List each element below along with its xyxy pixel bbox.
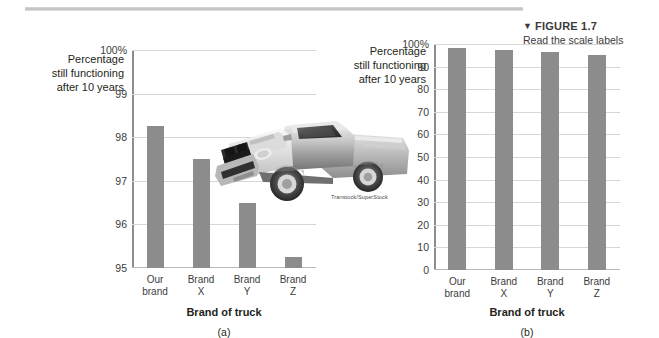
- figure-caption: ▼FIGURE 1.7 Read the scale labels: [523, 20, 655, 46]
- gridline: [132, 50, 316, 51]
- chart-b-plot-area: [434, 44, 620, 270]
- x-category-label: Brand Y: [527, 276, 574, 300]
- bar: [147, 126, 164, 268]
- y-tick-label: 99: [115, 88, 127, 100]
- y-tick-label: 10: [417, 241, 429, 253]
- x-category-label: Brand Z: [270, 274, 316, 298]
- bar: [448, 48, 466, 270]
- x-category-label: Brand Y: [224, 274, 270, 298]
- bar: [588, 55, 606, 270]
- y-tick-label: 95: [115, 262, 127, 274]
- chart-a-y-axis: [132, 50, 134, 268]
- bar: [541, 52, 559, 270]
- x-category-label: Brand X: [481, 276, 528, 300]
- chart-b-x-axis-title: Brand of truck: [434, 306, 620, 318]
- y-tick-label: 96: [115, 218, 127, 230]
- y-tick-label: 100%: [402, 38, 429, 50]
- bar: [495, 50, 513, 270]
- y-tick-label: 0: [423, 264, 429, 276]
- figure-title-line: ▼FIGURE 1.7: [523, 20, 655, 32]
- gridline: [434, 44, 620, 45]
- chart-a-panel-label: (a): [132, 326, 316, 338]
- y-tick-label: 98: [115, 131, 127, 143]
- y-tick-label: 80: [417, 83, 429, 95]
- chart-panel-b: Percentage still functioning after 10 ye…: [330, 44, 630, 334]
- x-category-label: Our brand: [434, 276, 481, 300]
- y-tick-label: 30: [417, 196, 429, 208]
- y-tick-label: 100%: [100, 44, 127, 56]
- figure-number-label: FIGURE 1.7: [535, 20, 597, 32]
- bar: [239, 203, 256, 268]
- chart-b-panel-label: (b): [434, 326, 620, 338]
- y-tick-label: 60: [417, 128, 429, 140]
- chart-a-y-axis-title: Percentage still functioning after 10 ye…: [28, 52, 124, 94]
- y-tick-label: 50: [417, 151, 429, 163]
- y-tick-label: 90: [417, 61, 429, 73]
- top-rule-divider: [25, 7, 523, 11]
- chart-b-y-axis-title: Percentage still functioning after 10 ye…: [330, 44, 426, 86]
- chart-a-x-axis-title: Brand of truck: [132, 306, 316, 318]
- x-category-label: Brand X: [178, 274, 224, 298]
- y-tick-label: 97: [115, 175, 127, 187]
- y-tick-label: 70: [417, 106, 429, 118]
- bar: [285, 257, 302, 268]
- y-tick-label: 20: [417, 219, 429, 231]
- x-category-label: Brand Z: [574, 276, 621, 300]
- y-tick-label: 40: [417, 174, 429, 186]
- x-category-label: Our brand: [132, 274, 178, 298]
- bar: [193, 159, 210, 268]
- triangle-down-icon: ▼: [523, 21, 532, 31]
